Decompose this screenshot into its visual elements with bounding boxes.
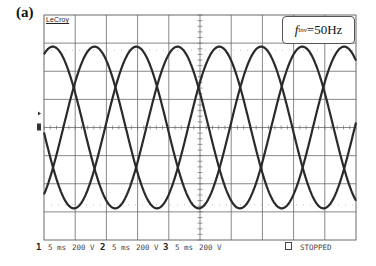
run-state: STOPPED [300,243,332,252]
brand-logo: LeCroy [46,16,69,23]
status-bar: 1 5 ms 200 V 2 5 ms 200 V 3 5 ms 200 V S… [36,243,366,255]
freq-value: =50Hz [307,22,343,38]
channel-3-timebase: 5 ms [175,243,193,252]
channel-1-volts: 200 V [72,243,95,252]
freq-subscript: inv [298,26,307,34]
channel-2-timebase: 5 ms [112,243,130,252]
square-icon [285,242,292,250]
channel-3-volts: 200 V [199,243,222,252]
channel-1-timebase: 5 ms [48,243,66,252]
channel-1-marker: 1 [36,242,41,252]
channel-3-marker: 3 [163,242,168,252]
channel-2-marker: 2 [100,242,105,252]
frequency-label-box: finv=50Hz [282,16,355,44]
channel-2-volts: 200 V [136,243,159,252]
